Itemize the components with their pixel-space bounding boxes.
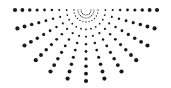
burst-dot (85, 43, 87, 45)
burst-dot (66, 9, 68, 11)
burst-dot (141, 8, 145, 12)
burst-dot (139, 40, 143, 44)
burst-dot (155, 8, 159, 12)
burst-dot (66, 28, 68, 30)
burst-dot (71, 23, 73, 25)
burst-dot (99, 23, 101, 25)
burst-dot (104, 28, 106, 30)
burst-dot (52, 18, 54, 20)
burst-dot (129, 53, 133, 57)
burst-dot (112, 57, 116, 61)
burst-dot (39, 53, 43, 57)
burst-dot (97, 12, 98, 13)
arc-dot (83, 14, 84, 15)
burst-dot (78, 35, 80, 37)
burst-dot (45, 19, 48, 22)
burst-dot (64, 45, 67, 48)
burst-dot (75, 26, 77, 28)
burst-dot (112, 9, 114, 11)
arc-dot (77, 9, 78, 10)
burst-dot (125, 19, 128, 22)
arc-dot (87, 14, 88, 15)
burst-dot (79, 20, 80, 21)
burst-dot (59, 16, 61, 18)
burst-dot (133, 8, 136, 11)
burst-dot (30, 23, 33, 27)
burst-dot (127, 33, 130, 36)
burst-dot (75, 15, 76, 16)
burst-dot (13, 8, 17, 12)
burst-dot (85, 36, 87, 38)
burst-dot (90, 28, 92, 30)
burst-dot (44, 48, 48, 52)
burst-dot (102, 19, 104, 21)
sunburst-dot-graphic (0, 0, 171, 88)
burst-dot (104, 14, 106, 16)
burst-dot (28, 8, 32, 12)
burst-dot (55, 38, 58, 41)
burst-dot (139, 23, 143, 27)
burst-dot (102, 38, 104, 40)
arc-dot (92, 13, 93, 14)
burst-dot (55, 26, 57, 28)
burst-dot (66, 14, 68, 16)
burst-dot (111, 16, 113, 18)
burst-dot (37, 21, 40, 24)
burst-dot (52, 63, 56, 67)
burst-dot (99, 63, 103, 67)
inner-arc-dots (77, 9, 94, 18)
burst-dot (98, 32, 100, 34)
arc-dot (78, 11, 79, 12)
arc-dot (89, 13, 90, 14)
burst-dot (105, 9, 107, 11)
burst-dot (132, 21, 135, 24)
burst-dot (108, 22, 110, 24)
arc-dot (85, 14, 86, 15)
burst-dot (76, 42, 78, 44)
burst-dot (23, 25, 27, 29)
burst-dot (77, 18, 78, 19)
arc-dot (80, 15, 81, 16)
arc-dot (93, 11, 94, 12)
burst-dot (15, 26, 19, 30)
burst-dot (118, 18, 120, 20)
burst-dot (148, 8, 152, 12)
burst-dot (105, 45, 108, 48)
burst-dot (82, 21, 83, 22)
arc-dot (83, 17, 84, 18)
burst-dot (73, 9, 74, 10)
burst-dot (29, 40, 33, 44)
burst-dot (36, 8, 39, 11)
burst-dot (96, 15, 97, 16)
burst-dot (116, 63, 120, 67)
arc-dot (78, 13, 79, 14)
arc-dot (89, 16, 90, 17)
burst-dot (72, 56, 75, 59)
ray-dots (13, 8, 159, 83)
burst-dot (91, 20, 92, 21)
burst-dot (42, 33, 45, 36)
burst-dot (62, 22, 64, 24)
burst-dot (94, 18, 95, 19)
burst-dot (84, 65, 88, 69)
burst-dot (134, 58, 138, 62)
burst-dot (58, 9, 60, 11)
burst-dot (133, 36, 137, 40)
arc-dot (81, 11, 82, 12)
burst-dot (97, 56, 100, 59)
arc-dot (90, 9, 91, 10)
burst-dot (36, 36, 40, 40)
burst-dot (114, 38, 117, 41)
burst-dot (119, 43, 122, 46)
burst-dot (85, 50, 88, 53)
burst-dot (60, 51, 63, 54)
burst-dot (61, 33, 63, 35)
burst-dot (85, 21, 86, 22)
burst-dot (80, 28, 82, 30)
burst-dot (121, 29, 124, 32)
burst-dot (43, 9, 46, 12)
burst-dot (109, 33, 111, 35)
burst-dot (95, 26, 97, 28)
burst-dot (50, 43, 53, 46)
burst-dot (68, 19, 70, 21)
